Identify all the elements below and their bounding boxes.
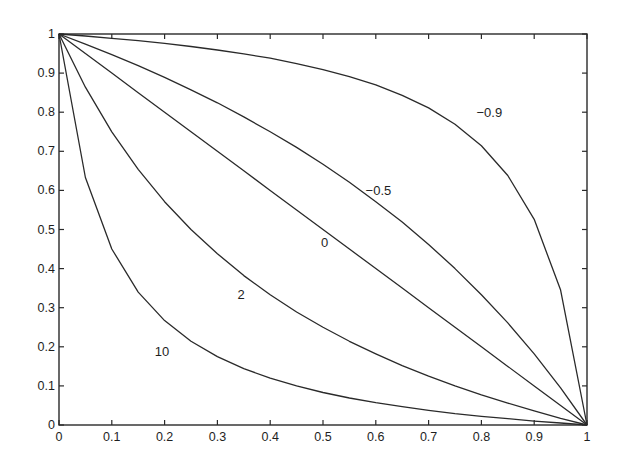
- x-tick-label: 0.4: [262, 430, 279, 444]
- curve-label: 10: [155, 344, 169, 359]
- y-tick-label: 0: [48, 418, 55, 432]
- x-tick-label: 0.6: [367, 430, 384, 444]
- x-tick-label: 1: [584, 430, 591, 444]
- x-tick-label: 0.2: [156, 430, 173, 444]
- y-tick-label: 0.9: [38, 66, 55, 80]
- x-tick-label: 0.5: [314, 430, 331, 444]
- y-tick-label: 0.5: [38, 223, 55, 237]
- curve-label: −0.9: [476, 105, 502, 120]
- curve-label: 2: [238, 287, 245, 302]
- y-tick-label: 0.7: [38, 144, 55, 158]
- chart-background: [0, 0, 621, 463]
- x-tick-label: 0.8: [473, 430, 490, 444]
- y-tick-label: 0.4: [38, 262, 55, 276]
- curve-label: −0.5: [366, 183, 392, 198]
- x-tick-label: 0: [56, 430, 63, 444]
- x-tick-label: 0.9: [526, 430, 543, 444]
- x-tick-label: 0.3: [209, 430, 226, 444]
- curve-label: 0: [321, 235, 328, 250]
- y-tick-label: 0.2: [38, 340, 55, 354]
- x-tick-label: 0.7: [420, 430, 437, 444]
- y-tick-label: 1: [48, 27, 55, 41]
- y-tick-label: 0.6: [38, 183, 55, 197]
- y-tick-label: 0.1: [38, 379, 55, 393]
- x-tick-label: 0.1: [103, 430, 120, 444]
- y-tick-label: 0.3: [38, 301, 55, 315]
- y-tick-label: 0.8: [38, 105, 55, 119]
- line-chart: 00.10.20.30.40.50.60.70.80.91 00.10.20.3…: [0, 0, 621, 463]
